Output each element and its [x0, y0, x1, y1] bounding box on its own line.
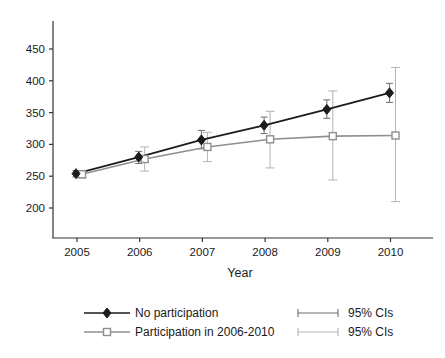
x-tick-label: 2008: [252, 246, 278, 258]
legend-row-participation: Participation in 2006-2010 95% CIs: [83, 323, 393, 341]
plot-area: 2002503003504004502005200620072008200920…: [0, 0, 445, 296]
x-tick-label: 2010: [378, 246, 404, 258]
x-tick-label: 2006: [127, 246, 153, 258]
y-tick-label: 200: [26, 202, 45, 214]
y-tick-label: 300: [26, 138, 45, 150]
x-tick-label: 2005: [64, 246, 90, 258]
ci-errorbar-icon: [296, 306, 340, 320]
legend-row-no-participation: No participation 95% CIs: [83, 304, 393, 322]
y-tick-label: 350: [26, 107, 45, 119]
legend: No participation 95% CIs Participation i…: [83, 304, 393, 341]
y-tick-label: 450: [26, 43, 45, 55]
line-chart-figure: 2002503003504004502005200620072008200920…: [0, 0, 445, 358]
ci-errorbar-icon: [296, 325, 340, 339]
legend-label-ci-1: 95% CIs: [348, 304, 393, 322]
legend-label-ci-2: 95% CIs: [348, 323, 393, 341]
y-tick-label: 400: [26, 75, 45, 87]
y-axis-ticks: 200250300350400450: [26, 43, 53, 214]
legend-label-participation: Participation in 2006-2010: [135, 323, 288, 341]
series-line-participation: [82, 135, 396, 174]
participation-line-icon: [83, 325, 131, 339]
no-participation-line-icon: [83, 306, 131, 320]
x-tick-label: 2009: [315, 246, 341, 258]
ci-bars-participation: [78, 67, 401, 201]
legend-label-no-participation: No participation: [135, 304, 288, 322]
x-tick-label: 2007: [190, 246, 216, 258]
series-line-no-participation: [76, 93, 390, 174]
markers-participation: [79, 132, 400, 178]
x-axis-title: Year: [227, 266, 252, 280]
y-tick-label: 250: [26, 170, 45, 182]
x-axis-ticks: 200520062007200820092010: [64, 238, 403, 258]
